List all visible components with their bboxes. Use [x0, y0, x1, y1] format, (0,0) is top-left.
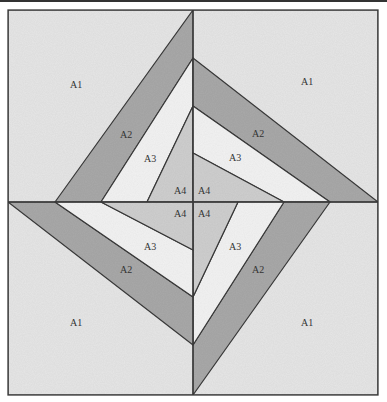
label-br-a3: A3 — [229, 241, 241, 252]
label-tl-a3: A3 — [144, 153, 156, 164]
label-tr-a4: A4 — [198, 185, 210, 196]
label-bl-a3: A3 — [144, 241, 156, 252]
label-tl-a4: A4 — [174, 185, 186, 196]
label-bl-a2: A2 — [120, 264, 132, 275]
label-br-a4: A4 — [198, 208, 210, 219]
label-bl-a4: A4 — [174, 208, 186, 219]
label-bl-a1: A1 — [70, 317, 82, 328]
label-tr-a2: A2 — [252, 128, 264, 139]
label-tl-a1: A1 — [70, 79, 82, 90]
label-br-a2: A2 — [252, 264, 264, 275]
quilt-block-diagram: A1 A2 A3 A4 A1 A2 A3 A4 A1 A2 A3 A4 A1 A… — [0, 0, 387, 402]
label-tr-a3: A3 — [229, 152, 241, 163]
label-tl-a2: A2 — [120, 129, 132, 140]
label-br-a1: A1 — [301, 317, 313, 328]
label-tr-a1: A1 — [301, 76, 313, 87]
